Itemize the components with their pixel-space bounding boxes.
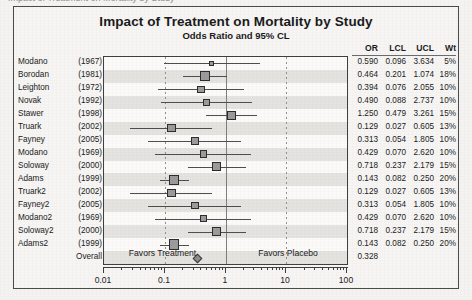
study-label-row: Fayney2(2005) [18, 199, 102, 211]
axis-tick-minor [222, 267, 223, 270]
study-effect-marker [200, 71, 210, 81]
value-or: 0.718 [352, 225, 378, 237]
study-name: Truark [18, 121, 41, 133]
axis-tick-minor [267, 267, 268, 270]
study-label-row: Fayney(2005) [18, 134, 102, 146]
axis-tick-minor [154, 267, 155, 270]
chart-subtitle: Odds Ratio and 95% CL [0, 30, 472, 41]
table-row: 0.328 [352, 251, 456, 263]
value-wt: 10% [436, 212, 456, 224]
axis-tick-label: 10 [265, 275, 305, 285]
study-effect-marker [203, 99, 210, 106]
value-ucl: 0.250 [408, 238, 434, 250]
study-effect-marker [227, 111, 236, 120]
axis-tick-minor [279, 267, 280, 270]
axis-tick-minor [314, 267, 315, 270]
study-label-row: Soloway2(2000) [18, 225, 102, 237]
axis-tick-minor [253, 267, 254, 270]
value-wt: 13% [436, 121, 456, 133]
study-effect-marker [200, 215, 207, 222]
value-wt: 10% [436, 147, 456, 159]
study-label-row: Truark(2002) [18, 121, 102, 133]
axis-tick-minor [340, 267, 341, 270]
study-effect-marker [191, 202, 198, 209]
value-lcl: 0.054 [380, 134, 406, 146]
axis-tick-major [103, 267, 104, 273]
cut-off-title-sliver: Impact of Treatment on Mortality by Stud… [0, 0, 472, 4]
value-wt: 15% [436, 160, 456, 172]
axis-tick-label: 1 [205, 275, 245, 285]
value-wt: 5% [436, 56, 456, 68]
axis-tick-minor [193, 267, 194, 270]
value-wt: 10% [436, 95, 456, 107]
value-ucl: 2.179 [408, 225, 434, 237]
study-name: Modano [18, 147, 48, 159]
study-effect-marker [191, 137, 198, 144]
axis-tick-minor [158, 267, 159, 270]
favors-treatment-label: Favors Treatment [110, 248, 215, 258]
value-ucl: 0.605 [408, 121, 434, 133]
table-row: 0.4290.0702.62010% [352, 212, 456, 224]
column-header-or: OR [352, 43, 378, 53]
value-ucl: 2.055 [408, 82, 434, 94]
axis-tick-minor [343, 267, 344, 270]
study-name: Soloway [18, 160, 49, 172]
table-row: 0.1430.0820.25020% [352, 173, 456, 185]
value-or: 0.143 [352, 173, 378, 185]
study-year: (1999) [78, 238, 102, 250]
axis-tick-minor [304, 267, 305, 270]
value-or: 0.129 [352, 186, 378, 198]
axis-tick-minor [282, 267, 283, 270]
study-name: Overall [76, 251, 102, 263]
study-label-row: Stawer(1998) [18, 108, 102, 120]
axis-tick-minor [272, 267, 273, 270]
value-ucl: 2.620 [408, 147, 434, 159]
study-label-row: Truark2(2002) [18, 186, 102, 198]
axis-tick-minor [328, 267, 329, 270]
study-year: (2005) [78, 134, 102, 146]
axis-tick-minor [200, 267, 201, 270]
value-wt: 13% [436, 186, 456, 198]
value-ucl: 2.179 [408, 160, 434, 172]
value-or: 0.718 [352, 160, 378, 172]
value-lcl: 0.096 [380, 56, 406, 68]
chart-title: Impact of Treatment on Mortality by Stud… [0, 14, 472, 29]
study-year: (1999) [78, 173, 102, 185]
value-lcl: 0.082 [380, 173, 406, 185]
axis-tick-minor [219, 267, 220, 270]
value-wt: 10% [436, 134, 456, 146]
study-year: (1967) [78, 56, 102, 68]
study-effect-marker [169, 175, 180, 186]
study-name: Stawer [18, 108, 43, 120]
study-name: Fayney2 [18, 199, 49, 211]
study-year: (1969) [78, 212, 102, 224]
table-row: 0.3940.0762.05510% [352, 82, 456, 94]
column-header-ucl: UCL [408, 43, 434, 53]
axis-tick-minor [140, 267, 141, 270]
study-name: Adams [18, 173, 43, 185]
table-row: 0.3130.0541.80510% [352, 134, 456, 146]
study-name: Soloway2 [18, 225, 54, 237]
study-label-row: Overall [18, 251, 102, 263]
value-lcl: 0.237 [380, 160, 406, 172]
study-effect-marker [200, 150, 207, 157]
value-lcl: 0.088 [380, 95, 406, 107]
study-year: (1981) [78, 69, 102, 81]
axis-tick-major [346, 267, 347, 273]
value-or: 0.328 [352, 251, 378, 263]
value-or: 1.250 [352, 108, 378, 120]
axis-tick-major [225, 267, 226, 273]
study-year: (1998) [78, 108, 102, 120]
study-year: (2005) [78, 199, 102, 211]
favors-placebo-label: Favors Placebo [238, 248, 338, 258]
value-lcl: 0.070 [380, 147, 406, 159]
axis-tick-minor [243, 267, 244, 270]
study-name: Novak [18, 95, 41, 107]
value-or: 0.394 [352, 82, 378, 94]
value-lcl: 0.054 [380, 199, 406, 211]
study-name: Fayney [18, 134, 45, 146]
value-lcl: 0.479 [380, 108, 406, 120]
axis-tick-minor [206, 267, 207, 270]
study-name: Borodan [18, 69, 49, 81]
study-effect-marker [209, 61, 215, 67]
